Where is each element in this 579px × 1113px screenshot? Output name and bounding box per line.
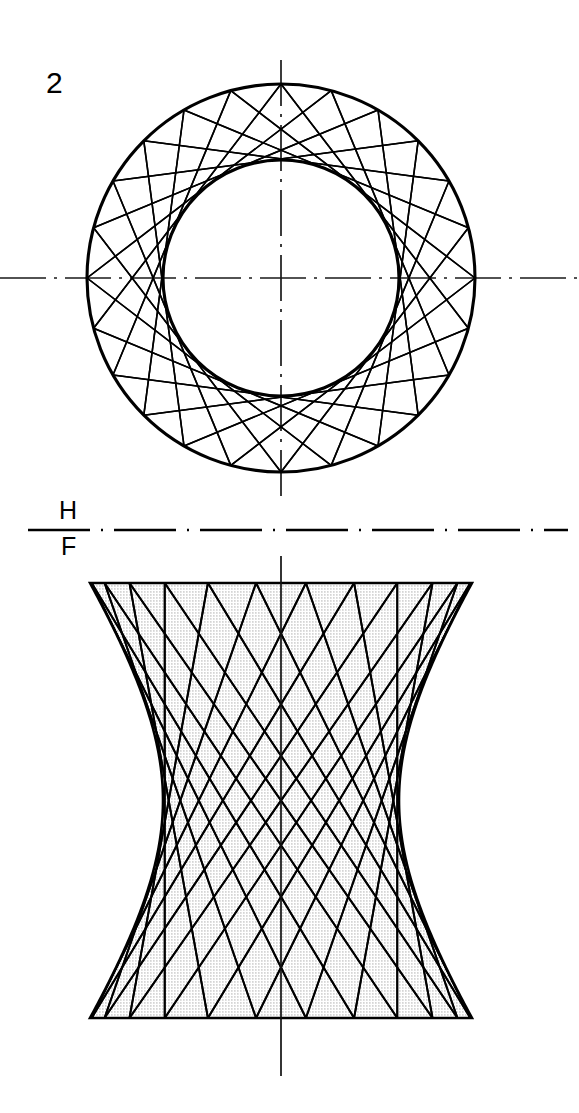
frontal-plane-label: F xyxy=(61,534,76,559)
top-view xyxy=(0,60,579,500)
horizontal-plane-label: H xyxy=(59,498,77,523)
figure-number-label: 2 xyxy=(46,68,63,98)
drawing-sheet: 2 H F xyxy=(0,0,579,1113)
technical-drawing-canvas xyxy=(0,0,579,1113)
front-view xyxy=(90,556,472,1076)
